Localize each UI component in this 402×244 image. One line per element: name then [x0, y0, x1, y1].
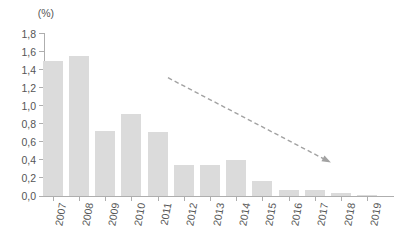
x-tick-2015	[262, 196, 263, 201]
x-label-text-2018: 2018	[342, 202, 357, 227]
y-tick-label-1: 0,2	[0, 172, 36, 184]
x-tick-2007	[53, 196, 54, 201]
x-label-text-2011: 2011	[159, 202, 174, 226]
y-tick-label-2: 0,4	[0, 154, 36, 166]
bar-2015	[252, 181, 272, 196]
x-tick-2010	[131, 196, 132, 201]
declining-percentage-bar-chart: (%) 0,00,20,40,60,81,01,21,41,61,8 20072…	[0, 0, 402, 244]
x-label-text-2015: 2015	[263, 202, 278, 227]
y-tick-label-4: 0,8	[0, 118, 36, 130]
x-tick-2016	[289, 196, 290, 201]
x-label-text-2012: 2012	[185, 202, 200, 227]
trend-arrow-head-0	[321, 156, 330, 163]
x-tick-2011	[158, 196, 159, 201]
x-tick-2017	[315, 196, 316, 201]
x-label-text-2007: 2007	[54, 202, 69, 227]
x-tick-2012	[184, 196, 185, 201]
trend-arrow-line-0	[168, 78, 325, 160]
y-axis-unit-label: (%)	[0, 7, 54, 20]
x-tick-2018	[341, 196, 342, 201]
bar-2008	[69, 56, 89, 196]
y-tick-label-6: 1,2	[0, 82, 36, 94]
x-tick-2008	[79, 196, 80, 201]
x-label-text-2008: 2008	[80, 202, 95, 227]
bar-2011	[148, 132, 168, 196]
x-label-text-2009: 2009	[106, 202, 121, 227]
bar-2012	[174, 165, 194, 196]
bar-2013	[200, 165, 220, 196]
x-label-text-2017: 2017	[316, 202, 331, 227]
y-tick-8	[39, 51, 44, 52]
bar-2010	[121, 114, 141, 196]
y-tick-label-3: 0,6	[0, 136, 36, 148]
x-tick-2009	[105, 196, 106, 201]
y-tick-label-9: 1,8	[0, 28, 36, 40]
bar-2007	[43, 61, 63, 196]
y-tick-label-0: 0,0	[0, 190, 36, 202]
x-label-text-2019: 2019	[368, 202, 383, 227]
x-tick-2014	[236, 196, 237, 201]
y-tick-label-5: 1,0	[0, 100, 36, 112]
y-tick-label-7: 1,4	[0, 64, 36, 76]
bar-2009	[95, 131, 115, 196]
x-label-text-2016: 2016	[289, 202, 304, 227]
y-tick-label-8: 1,6	[0, 46, 36, 58]
x-label-text-2010: 2010	[132, 202, 147, 227]
bar-2014	[226, 160, 246, 196]
y-tick-9	[39, 33, 44, 34]
x-label-text-2014: 2014	[237, 202, 252, 227]
x-label-text-2013: 2013	[211, 202, 226, 227]
x-tick-2013	[210, 196, 211, 201]
x-tick-2019	[367, 196, 368, 201]
